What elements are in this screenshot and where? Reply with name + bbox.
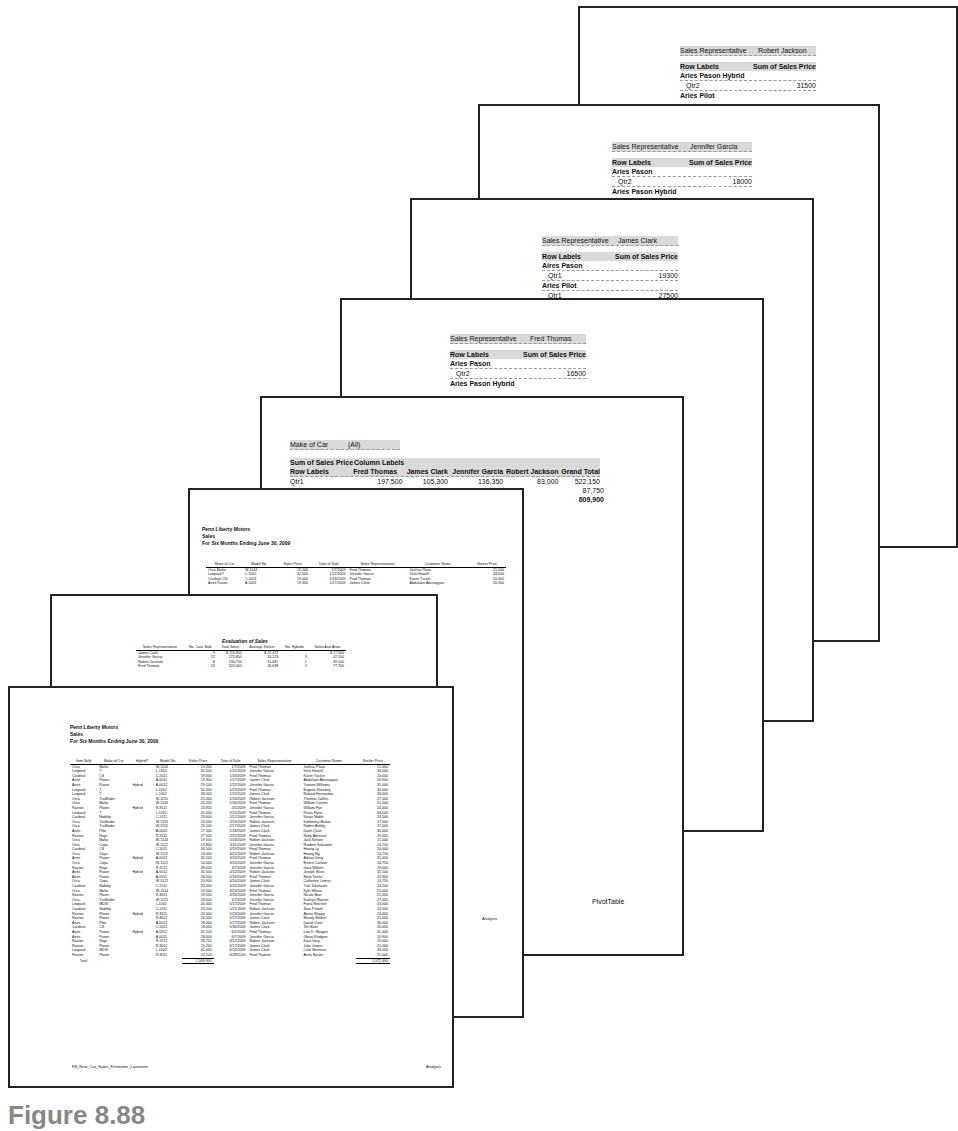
pivot-row: Qtr2 (450, 369, 470, 378)
filter-label: Sales Representative (450, 334, 517, 343)
pivot-value: 16500 (567, 369, 586, 378)
value-header: Sum of Sales Price (689, 158, 752, 167)
footer-filename: R8_New_Car_Sales_Firstname_Lastname (72, 1064, 148, 1069)
pivot-value: 18000 (733, 177, 752, 186)
row-labels-header[interactable]: Row Labels (290, 467, 353, 476)
footer-sheet-name: Analysis (426, 1064, 441, 1069)
report-period: For Six Months Ending June 30, 2009 (70, 738, 158, 745)
table-cell: 20,900 (468, 581, 506, 586)
pivot-row: Qtr1 (542, 271, 562, 280)
report-period: For Six Months Ending June 30, 2009 (202, 540, 290, 547)
filter-value[interactable]: (All) (348, 440, 400, 449)
report-title: Sales (202, 533, 290, 540)
value-header: Sum of Sales Price (615, 252, 678, 261)
cell: 522,150 (559, 477, 600, 486)
pivot-james-clark: Sales RepresentativeJames Clark Row Labe… (542, 236, 678, 300)
evaluation-body: James Clark9$ 116,850$ 25,472-$ 17,500Je… (136, 650, 346, 669)
column-header: Jennifer Garcia (448, 467, 503, 476)
filter-label: Sales Representative (612, 142, 679, 151)
company-name: Penn Liberty Motors (202, 526, 290, 533)
pivot-row: Aries Pason (612, 167, 652, 176)
page-front-sales: Penn Liberty Motors Sales For Six Months… (8, 686, 454, 1088)
page-footer: PivotTable (592, 898, 624, 905)
table-cell: 2 (280, 664, 308, 669)
table-cell: James Clark (347, 581, 407, 586)
cell: 136,350 (448, 477, 503, 486)
table-cell: A-0011 (243, 581, 275, 586)
cell: 197,500 (353, 477, 402, 486)
pivot-row: Aries Pason (450, 359, 490, 368)
pivot-row: Aries Pason Hybrid (680, 71, 745, 80)
cell: 105,300 (403, 477, 448, 486)
total-sticker: 1,072,400 (356, 958, 390, 964)
page-footer: Analysis (482, 916, 497, 921)
table-cell: 13 (184, 664, 217, 669)
column-header: Grand Total (559, 467, 600, 476)
pivot-value: 19300 (659, 271, 678, 280)
value-label: Sum of Sales Price (290, 458, 354, 467)
table-cell: 19,300 (275, 581, 310, 586)
filter-value[interactable]: Jennifer Garcia (690, 142, 752, 151)
filter-label: Make of Car (290, 440, 328, 449)
sorted-sales-body: Orca MaltoW-114419,2001/7/2009Fred Thoma… (206, 567, 506, 586)
report-header: Penn Liberty Motors Sales For Six Months… (70, 724, 158, 745)
report-title: Sales (70, 731, 158, 738)
pivot-row: Aires Pason (542, 261, 582, 270)
front-sales-table: Item Sold Make of Car Hybrid? Model No. … (70, 759, 390, 964)
figure-caption: Figure 8.88 (8, 1100, 145, 1131)
total-sales: 1,009,900 (182, 958, 213, 964)
row-labels-header[interactable]: Row Labels (450, 350, 489, 359)
table-cell: 77,700 (309, 664, 346, 669)
table-cell: 1/17/2009 (310, 581, 347, 586)
evaluation-table: Sales Representative No. Cars Sold Total… (136, 645, 346, 669)
value-header: Sum of Sales Price (523, 350, 586, 359)
front-sales-body: OrcaMaltoW-114419,2001/7/2009Fred Thomas… (70, 764, 390, 958)
column-labels-header[interactable]: Column Labels (354, 458, 404, 467)
row-labels-header[interactable]: Row Labels (680, 62, 719, 71)
total-label: Total (70, 958, 97, 964)
table-cell: 26,638 (244, 664, 281, 669)
pivot-row: Qtr2 (680, 81, 700, 90)
pivot-value: 31500 (797, 81, 816, 90)
table-cell: 324,400 (217, 664, 244, 669)
column-header: James Clark (403, 467, 448, 476)
column-header: Fred Thomas (353, 467, 402, 476)
filter-label: Sales Representative (680, 46, 747, 55)
filter-value[interactable]: James Clark (618, 236, 678, 245)
sorted-sales-table: Make of Car Model No. Sales Price Date o… (206, 562, 506, 586)
pivot-row: Qtr1 197,500 105,300 136,350 83,000 522,… (290, 477, 600, 486)
pivot-robert-jackson: Sales RepresentativeRobert Jackson Row L… (680, 46, 816, 100)
filter-value[interactable]: Robert Jackson (758, 46, 816, 55)
company-name: Penn Liberty Motors (70, 724, 158, 731)
row-label: Qtr1 (290, 477, 353, 486)
pivot-row: Aries Pilot (680, 91, 715, 100)
col-header: Sales Representative (136, 645, 184, 650)
row-labels-header[interactable]: Row Labels (612, 158, 651, 167)
pivot-row: Aries Pason Hybrid (612, 187, 677, 196)
report-header: Penn Liberty Motors Sales For Six Months… (202, 526, 290, 547)
evaluation-title: Evaluation of Sales (222, 638, 268, 644)
pivot-jennifer-garcia: Sales RepresentativeJennifer Garcia Row … (612, 142, 752, 196)
pivot-fred-thomas: Sales RepresentativeFred Thomas Row Labe… (450, 334, 586, 388)
pivot-row: Aries Pilot (542, 281, 577, 290)
value-header: Sum of Sales Price (753, 62, 816, 71)
cell: 83,000 (503, 477, 558, 486)
pivot-row: Qtr2 (612, 177, 632, 186)
table-cell: Fred Thomas (136, 664, 184, 669)
table-cell: Aires Pason (206, 581, 243, 586)
filter-value[interactable]: Fred Thomas (530, 334, 586, 343)
column-header: Robert Jackson (503, 467, 558, 476)
pivot-row: Aries Pason Hybrid (450, 379, 515, 388)
filter-label: Sales Representative (542, 236, 609, 245)
row-labels-header[interactable]: Row Labels (542, 252, 581, 261)
table-row: Aires PasonA-001119,3001/17/2009James Cl… (206, 581, 506, 586)
table-cell: Abdulaziz Abunayyan (408, 581, 468, 586)
table-row: Fred Thomas13324,40026,638277,700 (136, 664, 346, 669)
